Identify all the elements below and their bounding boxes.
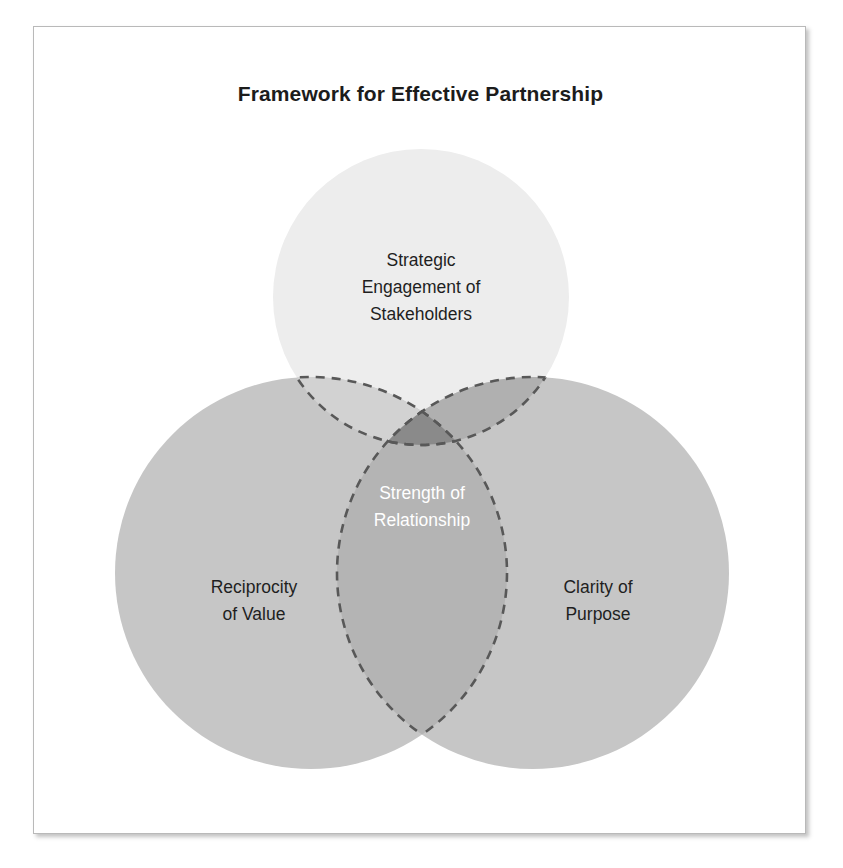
venn-label-top-line-2: Engagement of xyxy=(362,277,481,297)
intersection-top-left xyxy=(115,377,507,769)
dashed-arc-top-left xyxy=(273,149,569,445)
venn-svg: Strategic Engagement of Stakeholders Rec… xyxy=(1,1,843,868)
venn-circle-right xyxy=(337,377,729,769)
venn-label-center-line-1: Strength of xyxy=(379,483,465,503)
venn-label-right-line-2: Purpose xyxy=(565,604,630,624)
dashed-arc-right-in-left xyxy=(337,377,729,769)
venn-circle-top xyxy=(273,149,569,445)
venn-label-left-line-2: of Value xyxy=(223,604,286,624)
page-title: Framework for Effective Partnership xyxy=(34,82,807,106)
dashed-arc-left xyxy=(115,377,507,769)
venn-label-right-line-1: Clarity of xyxy=(563,577,632,597)
intersection-left-right xyxy=(337,377,729,769)
venn-diagram: Strategic Engagement of Stakeholders Rec… xyxy=(1,1,843,868)
venn-label-left: Reciprocity of Value xyxy=(211,577,298,624)
venn-label-right: Clarity of Purpose xyxy=(563,577,632,624)
figure-root: Framework for Effective Partnership xyxy=(0,0,843,868)
venn-label-top: Strategic Engagement of Stakeholders xyxy=(362,250,481,324)
venn-circle-left xyxy=(115,377,507,769)
venn-label-left-line-1: Reciprocity xyxy=(211,577,298,597)
dashed-arc-top-right xyxy=(273,149,569,445)
dashed-arc-right xyxy=(337,377,729,769)
venn-label-center-line-2: Relationship xyxy=(374,510,470,530)
venn-label-top-line-1: Strategic xyxy=(386,250,455,270)
venn-label-center: Strength of Relationship xyxy=(374,483,470,530)
venn-dashed-outlines xyxy=(115,149,729,769)
dashed-arc-left-in-right xyxy=(115,377,507,769)
intersection-center xyxy=(337,377,729,769)
figure-panel: Framework for Effective Partnership xyxy=(33,26,806,834)
intersection-top-right xyxy=(337,377,729,769)
venn-label-top-line-3: Stakeholders xyxy=(370,304,472,324)
